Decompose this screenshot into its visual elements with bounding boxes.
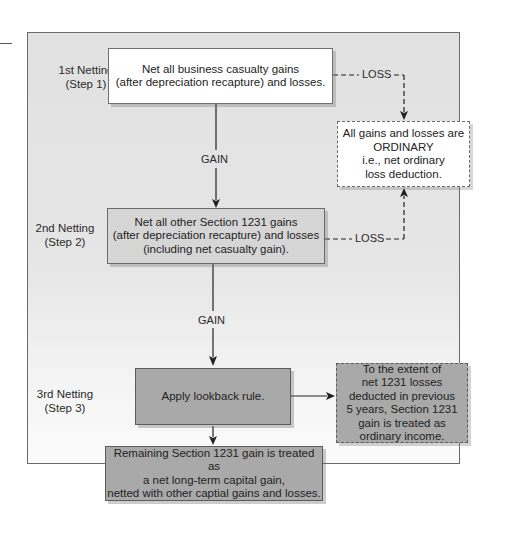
step-3-title: 3rd Netting xyxy=(20,387,110,401)
step-1-box-text-2: (after depreciation recapture) and losse… xyxy=(116,76,326,90)
step-2-subtitle: (Step 2) xyxy=(20,235,110,249)
lookback-result-text-5: gain is treated as xyxy=(358,417,446,431)
step-1-box: Net all business casualty gains (after d… xyxy=(108,48,333,104)
lookback-result-text-4: 5 years, Section 1231 xyxy=(346,403,457,417)
step-2-box-text-3: (including net casualty gain). xyxy=(143,243,289,257)
step-3-label: 3rd Netting (Step 3) xyxy=(20,387,110,415)
ordinary-text-4: loss deduction. xyxy=(365,168,442,182)
step-1-box-text-1: Net all business casualty gains xyxy=(142,63,299,77)
margin-rule xyxy=(0,43,12,44)
ordinary-result-box: All gains and losses are ORDINARY i.e., … xyxy=(337,121,470,187)
remaining-text-2: a net long-term capital gain, xyxy=(143,474,285,488)
lookback-result-box: To the extent of net 1231 losses deducte… xyxy=(336,363,468,443)
loss-label-2: LOSS xyxy=(353,232,386,244)
lookback-result-text-6: ordinary income. xyxy=(359,430,444,444)
ordinary-text-3: i.e., net ordinary xyxy=(362,154,444,168)
step-2-label: 2nd Netting (Step 2) xyxy=(20,221,110,249)
lookback-result-text-2: net 1231 losses xyxy=(362,376,443,390)
loss-label-1: LOSS xyxy=(360,68,393,80)
remaining-text-3: netted with other captial gains and loss… xyxy=(107,487,321,501)
step-2-box: Net all other Section 1231 gains (after … xyxy=(107,208,325,264)
lookback-result-text-1: To the extent of xyxy=(363,363,442,377)
gain-label-1: GAIN xyxy=(199,153,230,165)
step-2-box-text-2: (after depreciation recapture) and losse… xyxy=(113,229,319,243)
lookback-rule-box: Apply lookback rule. xyxy=(135,368,291,425)
ordinary-text-2: ORDINARY xyxy=(373,141,434,155)
gain-label-2: GAIN xyxy=(196,314,227,326)
lookback-result-text-3: deducted in previous xyxy=(349,390,455,404)
ordinary-text-1: All gains and losses are xyxy=(343,127,464,141)
step-3-subtitle: (Step 3) xyxy=(20,401,110,415)
step-2-box-text-1: Net all other Section 1231 gains xyxy=(134,216,297,230)
remaining-gain-box: Remaining Section 1231 gain is treated a… xyxy=(105,446,323,501)
lookback-text: Apply lookback rule. xyxy=(162,390,265,404)
step-2-title: 2nd Netting xyxy=(20,221,110,235)
remaining-text-1: Remaining Section 1231 gain is treated a… xyxy=(106,447,322,474)
